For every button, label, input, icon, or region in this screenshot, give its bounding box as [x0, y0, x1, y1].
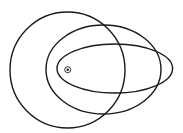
orbit-diagram [0, 0, 183, 133]
focus-dot-icon [67, 69, 69, 71]
